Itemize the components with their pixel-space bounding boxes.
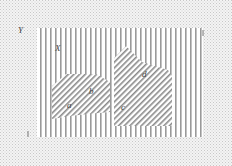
region-left-shape (52, 74, 110, 119)
label-a: a (67, 101, 72, 110)
diagram-graphic (0, 0, 232, 166)
label-y: Y (18, 26, 23, 35)
label-c: c (121, 103, 125, 112)
label-b: b (89, 87, 94, 96)
label-d: d (142, 70, 147, 79)
venn-diagram: Y X a b c d (0, 0, 232, 166)
label-x: X (55, 44, 61, 53)
